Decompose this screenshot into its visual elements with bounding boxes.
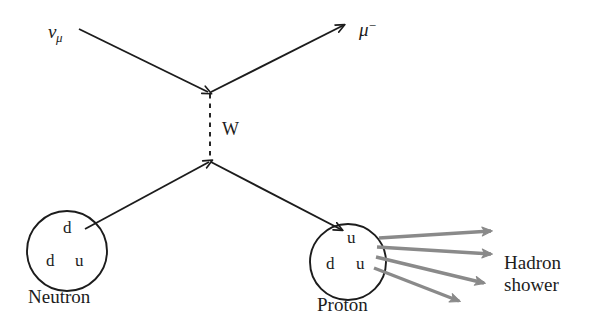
neutron-quark-d-left: d — [46, 252, 55, 269]
hadron-shower-arrow-3 — [376, 257, 484, 283]
neutrino-line — [79, 29, 208, 92]
neutron-quark-u-right: u — [75, 252, 84, 269]
neutrino-subscript: μ — [56, 30, 63, 45]
up-quark-line — [211, 162, 342, 230]
hadron-shower-arrow-1 — [379, 231, 491, 238]
proton-quark-u-top: u — [347, 229, 356, 246]
w-boson-label: W — [222, 120, 239, 138]
hadron-shower-label: Hadron shower — [504, 253, 561, 294]
proton-quark-u-right: u — [356, 255, 365, 272]
muon-line — [211, 25, 344, 92]
neutron-quark-d-top: d — [63, 219, 72, 236]
hadron-shower-line1: Hadron — [504, 252, 561, 273]
down-quark-line — [85, 162, 209, 229]
proton-quark-d-left: d — [326, 255, 335, 272]
neutron-name-label: Neutron — [28, 287, 90, 306]
hadron-shower-line2: shower — [504, 275, 561, 294]
feynman-diagram: νμ μ− W d d u Neutron u d u Proton Hadro… — [0, 0, 599, 327]
neutrino-label: νμ — [48, 22, 62, 44]
muon-label: μ− — [359, 19, 376, 39]
muon-superscript: − — [369, 18, 376, 33]
hadron-shower-arrow-2 — [377, 247, 491, 254]
proton-name-label: Proton — [317, 295, 368, 314]
muon-symbol: μ — [359, 19, 369, 40]
